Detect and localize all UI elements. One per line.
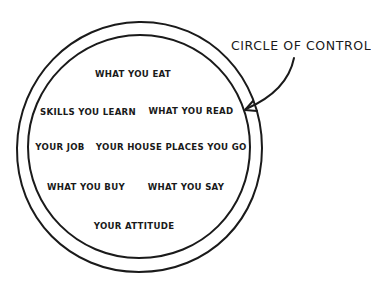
item-what-you-say: WHAT YOU SAY [148,183,225,192]
diagram-title: CIRCLE OF CONTROL [231,40,371,53]
item-skills-you-learn: SKILLS YOU LEARN [40,108,136,117]
item-your-house: YOUR HOUSE [96,143,162,152]
item-what-you-eat: WHAT YOU EAT [95,70,171,79]
item-your-attitude: YOUR ATTITUDE [94,222,175,231]
item-your-job: YOUR JOB [35,143,84,152]
item-what-you-read: WHAT YOU READ [149,107,234,116]
item-places-you-go: PLACES YOU GO [165,143,246,152]
item-what-you-buy: WHAT YOU BUY [47,183,125,192]
